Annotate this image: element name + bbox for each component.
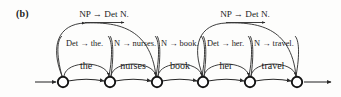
- np-label-2: NP → Det N.: [220, 9, 270, 19]
- baseline-arrow-2: [115, 79, 151, 81]
- word-label-nurses: nurses: [120, 60, 146, 71]
- rule-label-det-the: Det → the.: [66, 39, 103, 48]
- baseline-arrow-4: [208, 79, 244, 81]
- rule-arc-det-the-right: [108, 36, 112, 76]
- chart-node-3: [198, 77, 208, 87]
- chart-node-0: [58, 77, 68, 87]
- rule-label-det-her: Det → her.: [207, 39, 244, 48]
- word-label-travel: travel: [262, 60, 285, 71]
- rule-label-n-nurses: N → nurses.: [114, 39, 156, 48]
- chart-node-5: [292, 77, 302, 87]
- baseline-arrow-5: [255, 79, 291, 81]
- word-label-the: the: [80, 60, 93, 71]
- word-label-book: book: [170, 60, 190, 71]
- rule-arc-n-book-right: [201, 36, 205, 76]
- rule-label-n-travel: N → travel.: [254, 39, 294, 48]
- chart-node-2: [152, 77, 162, 87]
- np-label-1: NP → Det N.: [79, 9, 129, 19]
- baseline-arrow-3: [162, 79, 197, 81]
- parse-chart-figure: (b): [0, 0, 341, 97]
- chart-node-1: [105, 77, 115, 87]
- chart-arc-diagram: NP → Det N. NP → Det N. Det → the. N → n…: [0, 0, 341, 97]
- word-label-her: her: [220, 60, 233, 71]
- chart-node-4: [245, 77, 255, 87]
- rule-label-n-book: N → book.: [161, 39, 198, 48]
- rule-arc-det-her-right: [248, 36, 252, 76]
- baseline-arrow-1: [68, 79, 104, 81]
